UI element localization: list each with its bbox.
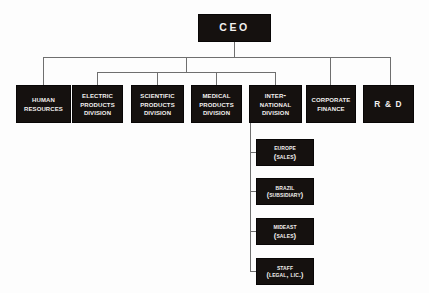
connector-international-spine — [250, 123, 251, 271]
node-electric-products-division[interactable]: Electric Products Division — [72, 85, 123, 123]
connector-lower-bus — [97, 72, 276, 73]
node-scientific-products-division-line-3: Division — [144, 108, 171, 117]
node-mideast-sales-line-2: (Sales) — [274, 232, 297, 240]
connector-drop-electric-products — [97, 72, 98, 85]
connector-drop-scientific-products — [157, 72, 158, 85]
node-brazil-subsidiary-line-2: (Subsidiary) — [267, 192, 304, 200]
node-corporate-finance[interactable]: Corporate Finance — [306, 85, 356, 123]
node-mideast-sales[interactable]: Mideast (Sales) — [256, 218, 314, 245]
node-europe-sales[interactable]: Europe (Sales) — [256, 139, 314, 166]
org-chart: CEO Human Resources Electric Products Di… — [0, 0, 429, 293]
node-europe-sales-line-2: (Sales) — [274, 153, 297, 161]
connector-drop-medical-products — [216, 72, 217, 85]
node-brazil-subsidiary[interactable]: Brazil (Subsidiary) — [256, 178, 314, 205]
node-medical-products-division-line-3: Division — [203, 108, 230, 117]
connector-ceo-stem — [234, 42, 235, 58]
node-ceo-line-1: CEO — [219, 22, 250, 33]
connector-upper-bus — [43, 57, 391, 58]
node-human-resources[interactable]: Human Resources — [16, 85, 71, 123]
node-electric-products-division-line-3: Division — [84, 108, 111, 117]
node-corporate-finance-line-2: Finance — [317, 104, 344, 113]
node-staff-legal-lic-line-2: (Legal, Lic.) — [267, 272, 304, 280]
node-international-division-line-3: Division — [262, 108, 289, 117]
node-ceo[interactable]: CEO — [198, 14, 271, 42]
node-r-and-d-line-1: R & D — [374, 100, 403, 109]
node-international-division[interactable]: Inter- national Division — [249, 85, 302, 123]
node-human-resources-line-2: Resources — [24, 104, 63, 113]
connector-drop-corporate-finance — [330, 57, 331, 85]
connector-drop-international — [275, 72, 276, 85]
node-medical-products-division[interactable]: Medical Products Division — [191, 85, 242, 123]
node-scientific-products-division[interactable]: Scientific Products Division — [131, 85, 184, 123]
node-r-and-d[interactable]: R & D — [363, 85, 414, 123]
connector-midgroup-stem — [186, 57, 187, 73]
connector-drop-human-resources — [43, 57, 44, 85]
connector-drop-r-and-d — [390, 57, 391, 85]
node-staff-legal-lic[interactable]: Staff (Legal, Lic.) — [256, 258, 314, 285]
